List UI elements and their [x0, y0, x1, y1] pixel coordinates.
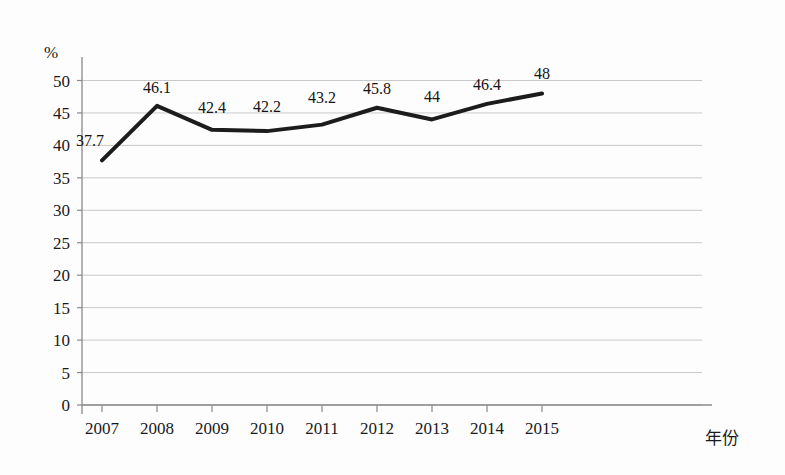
data-point-label: 44	[424, 88, 440, 105]
grid-lines	[82, 81, 702, 406]
y-tick-label: 25	[53, 234, 70, 253]
y-tick-label: 20	[53, 266, 70, 285]
x-tick-label: 2011	[305, 419, 338, 438]
x-tick-labels: 200720082009201020112012201320142015	[85, 405, 559, 438]
y-tick-label: 40	[53, 136, 70, 155]
data-point-label: 42.4	[198, 99, 226, 116]
x-tick-label: 2013	[415, 419, 449, 438]
x-tick-label: 2008	[140, 419, 174, 438]
data-point-label: 43.2	[308, 89, 336, 106]
y-tick-label: 45	[53, 104, 70, 123]
data-point-label: 42.2	[253, 98, 281, 115]
x-tick-label: 2015	[525, 419, 559, 438]
y-tick-label: 5	[62, 364, 71, 383]
y-tick-label: 30	[53, 201, 70, 220]
data-point-label: 46.4	[473, 76, 501, 93]
y-tick-label: 10	[53, 331, 70, 350]
data-point-label: 48	[534, 65, 550, 82]
x-tick-label: 2012	[360, 419, 394, 438]
data-point-label: 46.1	[143, 79, 171, 96]
y-tick-label: 50	[53, 72, 70, 91]
x-tick-label: 2014	[470, 419, 505, 438]
data-point-label: 37.7	[76, 132, 104, 149]
x-tick-label: 2009	[195, 419, 229, 438]
y-tick-label: 35	[53, 169, 70, 188]
x-tick-label: 2010	[250, 419, 284, 438]
y-tick-label: 15	[53, 299, 70, 318]
line-chart: % 年份 05101520253035404550 20072008200920…	[0, 0, 785, 475]
x-tick-label: 2007	[85, 419, 120, 438]
y-tick-label: 0	[62, 396, 71, 415]
chart-canvas: 05101520253035404550 2007200820092010201…	[0, 0, 785, 475]
data-point-label: 45.8	[363, 80, 391, 97]
y-tick-labels: 05101520253035404550	[53, 72, 82, 416]
